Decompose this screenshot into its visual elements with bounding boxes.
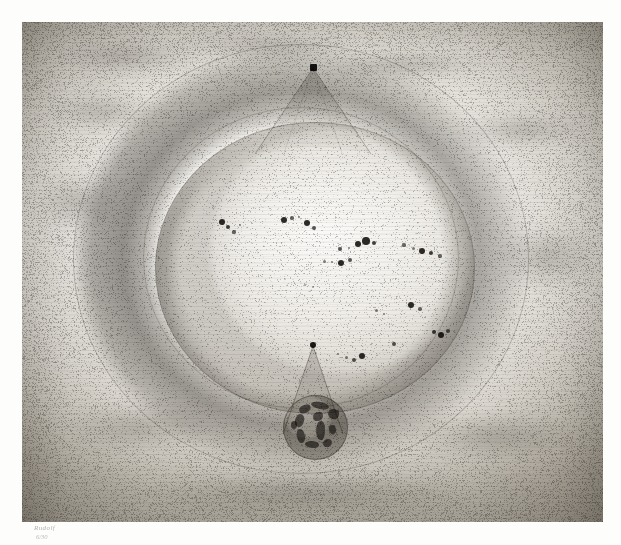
artist-signature: Rudolf [34,524,55,532]
plate-vignette [22,22,603,522]
edition-number: 6/30 [36,533,48,540]
print-plate [22,22,603,522]
artwork-root: Rudolf 6/30 [0,0,621,545]
